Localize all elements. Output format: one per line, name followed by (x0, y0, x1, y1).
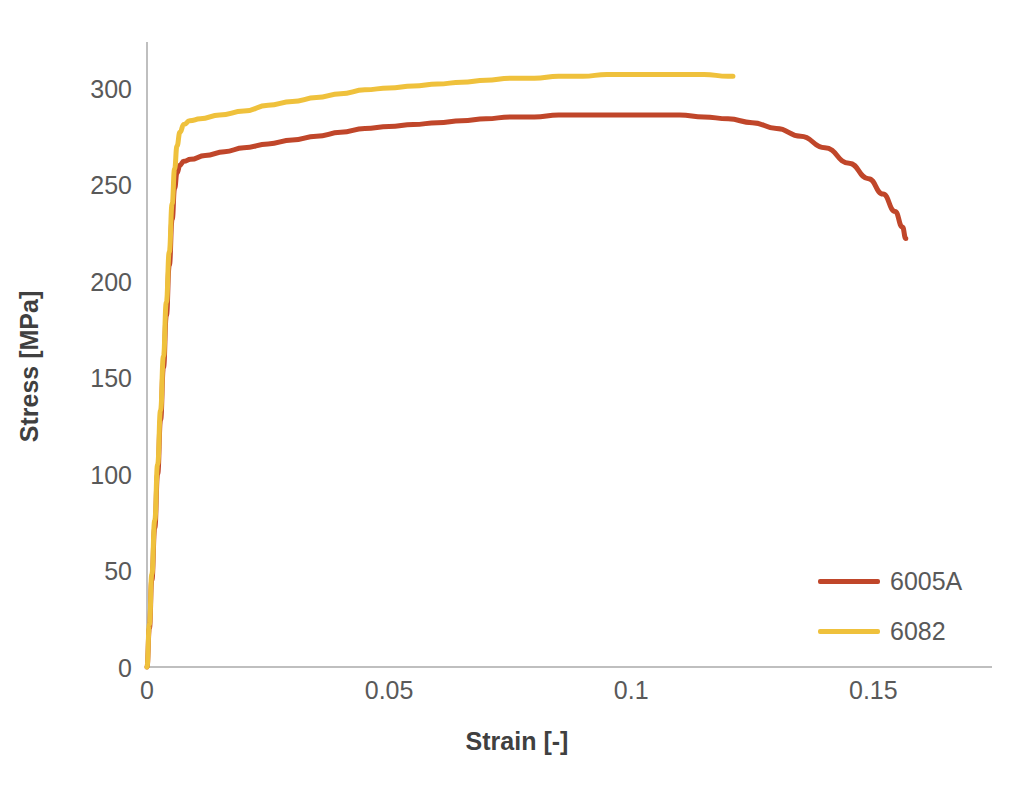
x-axis-tick-label: 0.05 (329, 678, 449, 703)
y-axis-title: Stress [MPa] (15, 207, 44, 527)
y-axis-tick-label: 300 (0, 75, 132, 104)
legend-item[interactable]: 6005A (818, 556, 1018, 606)
chart-legend: 6005A6082 (818, 556, 1018, 656)
series-line-6082 (147, 74, 733, 667)
legend-item-label: 6005A (890, 569, 962, 594)
y-axis-tick-label: 50 (0, 557, 132, 586)
legend-item-label: 6082 (890, 619, 946, 644)
y-axis-tick-label: 250 (0, 171, 132, 200)
legend-item[interactable]: 6082 (818, 606, 1018, 656)
x-axis-title: Strain [-] (0, 727, 1034, 756)
x-axis-tick-label: 0.15 (813, 678, 933, 703)
series-line-6005a (147, 115, 906, 667)
x-axis-tick-label: 0 (87, 678, 207, 703)
x-axis-tick-label: 0.1 (571, 678, 691, 703)
legend-color-swatch (818, 579, 880, 584)
stress-strain-chart: 050100150200250300 00.050.10.15 Stress [… (0, 0, 1034, 790)
legend-color-swatch (818, 629, 880, 634)
